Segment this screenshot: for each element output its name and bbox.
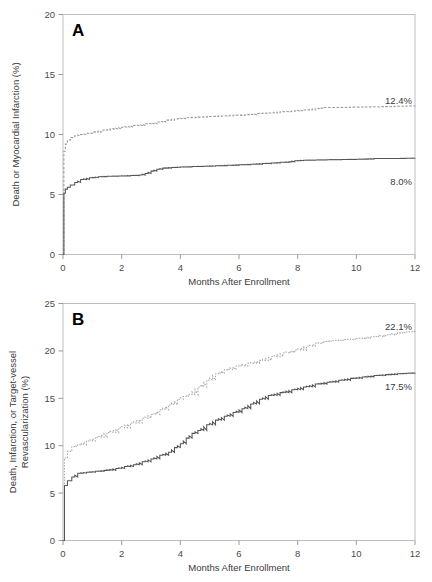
panel-a-ytick-15: 15 (44, 69, 55, 80)
panel-a-xtick-12: 12 (410, 262, 421, 273)
panel-b-ytick-5: 5 (50, 488, 55, 499)
panel-a-plot-frame (63, 15, 415, 255)
panel-b-x-ticks (63, 541, 415, 546)
panel-a-curve-dashed-upper (63, 106, 415, 255)
panel-a-svg: 0 5 10 15 20 0 2 4 6 8 10 12 (0, 0, 432, 291)
panel-a-y-ticks (59, 15, 64, 255)
panel-a-label-upper: 12.4% (385, 95, 412, 106)
panel-a-letter: A (72, 21, 84, 40)
panel-a-xtick-4: 4 (178, 262, 183, 273)
panel-a: 0 5 10 15 20 0 2 4 6 8 10 12 (0, 0, 432, 291)
panel-b: 0 5 10 15 20 25 0 2 4 6 8 10 12 (0, 291, 432, 582)
panel-a-label-lower: 8.0% (390, 176, 412, 187)
panel-a-x-axis-title: Months After Enrollment (188, 276, 290, 287)
panel-b-xtick-0: 0 (60, 548, 65, 559)
panel-b-xtick-10: 10 (351, 548, 362, 559)
panel-b-label-lower: 17.5% (385, 381, 412, 392)
panel-b-curve-dotted-upper (63, 331, 415, 541)
panel-b-curve-solid-lower (63, 373, 415, 541)
panel-a-ytick-0: 0 (50, 249, 55, 260)
panel-a-xtick-2: 2 (119, 262, 124, 273)
panel-b-ytick-25: 25 (44, 298, 55, 309)
panel-b-svg: 0 5 10 15 20 25 0 2 4 6 8 10 12 (0, 291, 432, 582)
panel-b-xtick-8: 8 (295, 548, 300, 559)
panel-b-xtick-4: 4 (178, 548, 183, 559)
panel-b-ytick-0: 0 (50, 535, 55, 546)
panel-b-ytick-20: 20 (44, 345, 55, 356)
panel-b-xtick-6: 6 (236, 548, 241, 559)
panel-a-xtick-10: 10 (351, 262, 362, 273)
panel-b-ytick-15: 15 (44, 393, 55, 404)
panel-b-xtick-12: 12 (410, 548, 421, 559)
panel-a-ytick-20: 20 (44, 9, 55, 20)
panel-a-xtick-0: 0 (60, 262, 65, 273)
panel-b-x-axis-title: Months After Enrollment (188, 562, 290, 573)
panel-a-y-axis-title: Death or Myocardial Infarction (%) (10, 62, 21, 206)
panel-a-ytick-10: 10 (44, 129, 55, 140)
panel-a-ytick-5: 5 (50, 189, 55, 200)
panel-b-letter: B (72, 310, 84, 329)
figure-container: 0 5 10 15 20 0 2 4 6 8 10 12 (0, 0, 432, 582)
panel-b-label-upper: 22.1% (385, 321, 412, 332)
panel-a-x-ticks (63, 255, 415, 260)
panel-b-ytick-10: 10 (44, 440, 55, 451)
panel-a-curve-solid-lower (63, 158, 415, 254)
panel-b-xtick-2: 2 (119, 548, 124, 559)
panel-a-xtick-6: 6 (236, 262, 241, 273)
panel-b-y-ticks (59, 304, 64, 541)
panel-b-y-axis-title-line1: Death, Infarction, or Target-vessel (7, 351, 18, 493)
panel-a-xtick-8: 8 (295, 262, 300, 273)
panel-b-y-axis-title-line2: Revascularization (%) (19, 376, 30, 468)
